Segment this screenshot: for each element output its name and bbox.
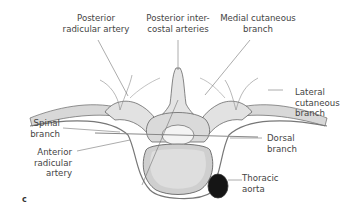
label-posterior-intercostal-arteries: Posterior inter- costal arteries [140, 13, 216, 34]
label-lateral-cutaneous-branch: Lateral cutaneous branch [295, 87, 340, 119]
label-spinal-branch: Spinal branch [20, 118, 60, 139]
label-thoracic-aorta: Thoracic aorta [242, 173, 279, 194]
label-posterior-radicular-artery: Posterior radicular artery [56, 13, 136, 34]
label-dorsal-branch: Dorsal branch [267, 133, 297, 154]
label-medial-cutaneous-branch: Medial cutaneous branch [218, 13, 298, 34]
panel-letter: c [22, 195, 27, 204]
label-anterior-radicular-artery: Anterior radicular artery [20, 147, 72, 179]
thoracic-aorta-shape [208, 174, 228, 198]
